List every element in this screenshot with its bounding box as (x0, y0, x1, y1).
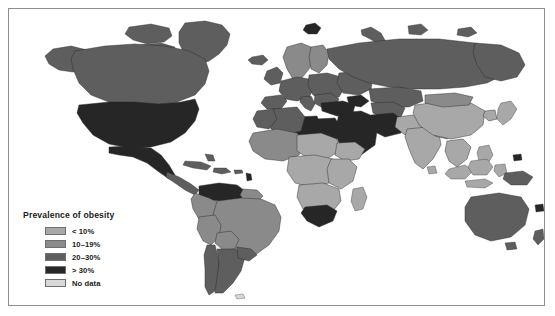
legend-item-10-19: 10–19% (23, 239, 173, 249)
legend-label-no-data: No data (72, 279, 101, 288)
legend-label-20-30: 20–30% (72, 253, 100, 262)
legend-swatch-20-30 (45, 253, 66, 261)
legend-item-gt30: > 30% (23, 265, 173, 275)
region-sri-lanka (427, 166, 437, 174)
legend-title: Prevalence of obesity (23, 210, 173, 220)
region-pacific-islands-fiji (535, 204, 544, 212)
legend-swatch-10-19 (45, 240, 66, 248)
legend-swatch-lt10 (45, 227, 66, 235)
legend-item-lt10: < 10% (23, 226, 173, 236)
map-legend: Prevalence of obesity < 10% 10–19% 20–30… (23, 210, 173, 291)
region-falklands (235, 294, 245, 299)
legend-swatch-gt30 (45, 266, 66, 274)
legend-item-20-30: 20–30% (23, 252, 173, 262)
region-pacific-islands-micronesia (513, 154, 522, 161)
obesity-prevalence-world-map-figure: Prevalence of obesity < 10% 10–19% 20–30… (0, 0, 555, 316)
region-tasmania (505, 242, 517, 250)
legend-item-no-data: No data (23, 278, 173, 288)
legend-swatch-no-data (45, 279, 66, 287)
map-area: Prevalence of obesity < 10% 10–19% 20–30… (9, 9, 544, 305)
legend-label-10-19: 10–19% (72, 240, 100, 249)
region-lesser-antilles (246, 173, 252, 181)
legend-label-lt10: < 10% (72, 227, 94, 236)
legend-label-gt30: > 30% (72, 266, 94, 275)
